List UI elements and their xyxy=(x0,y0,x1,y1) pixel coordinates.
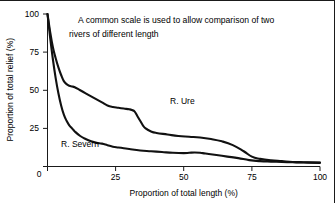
series-label-r-ure: R. Ure xyxy=(170,96,195,106)
x-axis-tick-labels: 25 50 75 100 xyxy=(111,172,327,182)
y-axis-tick-labels: 100 75 50 25 0 xyxy=(25,9,42,179)
chart-figure: A common scale is used to allow comparis… xyxy=(0,0,335,203)
y-tick-label-0: 0 xyxy=(37,169,42,179)
x-tick-label-75: 75 xyxy=(247,172,257,182)
y-axis-ticks xyxy=(43,14,48,167)
x-axis-ticks xyxy=(48,167,321,172)
series-label-r-severn: R. Severn xyxy=(61,139,99,149)
y-tick-label-25: 25 xyxy=(30,123,40,133)
y-tick-label-100: 100 xyxy=(25,9,39,19)
x-axis-title: Proportion of total length (%) xyxy=(130,188,238,198)
x-tick-label-50: 50 xyxy=(179,172,189,182)
x-tick-label-25: 25 xyxy=(111,172,121,182)
annotation-line-2: rivers of different length xyxy=(69,29,159,39)
y-tick-label-50: 50 xyxy=(30,85,40,95)
annotation-block: A common scale is used to allow comparis… xyxy=(69,15,275,39)
hypsometric-curve-chart: A common scale is used to allow comparis… xyxy=(0,1,335,203)
y-axis-title: Proportion of total relief (%) xyxy=(5,38,15,142)
annotation-line-1: A common scale is used to allow comparis… xyxy=(78,15,275,25)
x-tick-label-100: 100 xyxy=(313,172,327,182)
y-tick-label-75: 75 xyxy=(30,47,40,57)
